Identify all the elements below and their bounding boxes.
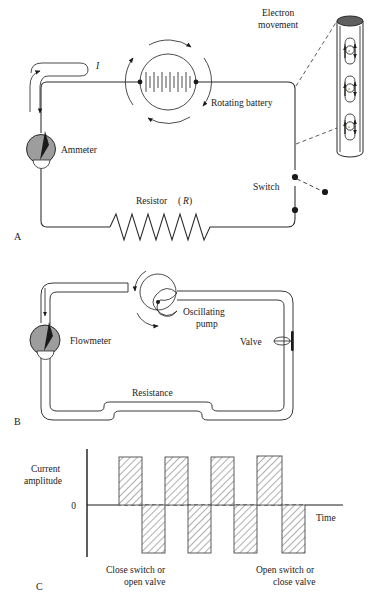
battery-label: Rotating battery (211, 98, 273, 108)
annotation-left-line1: Close switch or (106, 565, 166, 575)
figure-root: Resistor ( R ) Ammeter (0, 0, 381, 603)
y-axis-label-line1: Current (31, 464, 60, 474)
pulse-negative-3 (234, 505, 257, 553)
resistor-symbol (110, 214, 218, 240)
pulse-positive-4 (257, 456, 282, 505)
pump-label-line2: pump (196, 319, 218, 329)
pump-label-line1: Oscillating (183, 307, 225, 317)
electron-glyph-3: e (348, 124, 350, 129)
valve-label: Valve (240, 337, 262, 347)
annotation-right-line1: Open switch or (256, 565, 315, 575)
pulse-negative-4 (282, 505, 305, 553)
battery-plates (146, 72, 190, 92)
annotation-right-line2: close valve (273, 577, 315, 587)
pulse-positive-3 (211, 457, 234, 505)
ammeter[interactable] (27, 131, 56, 168)
flowmeter[interactable] (30, 322, 60, 360)
resistor-label: Resistor (136, 196, 168, 206)
wire-cylinder-detail: e e e (337, 16, 363, 157)
panel-c: Current amplitude 0 Time Close switch or… (24, 449, 343, 592)
panel-letter-c: C (36, 581, 43, 592)
panel-letter-a: A (14, 231, 22, 242)
resistor-paren-close: ) (189, 196, 192, 207)
panel-a: Resistor ( R ) Ammeter (14, 8, 363, 242)
pipe-outer-wall (41, 283, 293, 420)
flowmeter-label: Flowmeter (70, 336, 112, 346)
electron-glyph-2: e (348, 86, 350, 91)
pulse-positive-1 (119, 457, 142, 505)
annotation-left-line2: open valve (124, 577, 165, 587)
oscillating-pump[interactable] (135, 271, 177, 326)
panel-b: Flowmeter Oscillating pump Valve Resista… (14, 271, 294, 427)
pulse-negative-1 (142, 505, 165, 553)
callout-leaders (296, 21, 337, 144)
ammeter-label: Ammeter (61, 145, 98, 155)
y-axis-label-line2: amplitude (24, 476, 62, 486)
switch[interactable] (292, 174, 328, 213)
x-axis-label: Time (316, 513, 336, 523)
panel-letter-b: B (14, 416, 21, 427)
pulse-negative-2 (188, 505, 211, 553)
current-label: I (95, 61, 100, 71)
current-direction-arrow (30, 63, 88, 113)
resistor-paren-open: ( (178, 196, 181, 207)
resistor-symbol-label: R (182, 196, 189, 206)
electron-glyph-1: e (348, 48, 350, 53)
switch-label: Switch (253, 182, 280, 192)
electron-movement-label-line1: Electron (262, 8, 294, 18)
zero-tick-label: 0 (71, 501, 76, 511)
pulse-positive-2 (165, 457, 188, 505)
resistance-label: Resistance (132, 388, 173, 398)
electron-movement-label-line2: movement (258, 20, 298, 30)
